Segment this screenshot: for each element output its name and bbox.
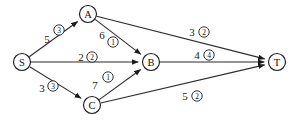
node-label-b: B [147, 57, 154, 68]
edge-s-a [29, 21, 77, 56]
edge-flow-label: 3 [57, 26, 61, 35]
edge-label-a-t: 32 [189, 26, 209, 38]
edge-flow-label: 1 [106, 73, 110, 82]
edge-capacity-label: 3 [39, 82, 45, 94]
node-label-s: S [19, 57, 25, 68]
edge-label-s-b: 22 [78, 51, 97, 63]
edge-flow-label: 1 [111, 38, 115, 47]
node-label-c: C [88, 100, 95, 111]
flow-network-diagram: SABCT 5322336132714452 [0, 0, 297, 122]
edge-capacity-label: 6 [99, 29, 105, 41]
edge-label-b-t: 44 [194, 49, 214, 61]
edge-flow-label: 2 [90, 53, 94, 62]
edge-label-s-a: 53 [44, 25, 64, 45]
edge-capacity-label: 4 [194, 49, 200, 61]
node-c[interactable]: C [84, 97, 101, 114]
node-s[interactable]: S [14, 54, 31, 71]
node-label-a: A [84, 9, 92, 20]
edge-label-c-b: 71 [92, 72, 113, 91]
edge-capacity-label: 3 [189, 26, 195, 38]
edge-label-c-t: 52 [182, 90, 202, 102]
edge-label-a-b: 61 [99, 29, 118, 47]
node-a[interactable]: A [80, 6, 97, 23]
edge-flow-label: 2 [202, 28, 206, 37]
edge-a-t [97, 16, 265, 59]
edge-flow-label: 4 [207, 51, 211, 60]
edge-capacity-label: 2 [78, 51, 84, 63]
node-t[interactable]: T [269, 54, 286, 71]
edge-capacity-label: 7 [92, 79, 98, 91]
edge-labels-layer: 5322336132714452 [39, 25, 214, 102]
edge-label-s-c: 33 [39, 81, 58, 94]
node-label-t: T [274, 57, 281, 68]
edge-capacity-label: 5 [44, 33, 50, 45]
edge-capacity-label: 5 [182, 90, 188, 102]
graph-canvas: SABCT 5322336132714452 [0, 0, 297, 122]
node-b[interactable]: B [143, 54, 160, 71]
nodes-layer: SABCT [14, 6, 286, 114]
edge-flow-label: 3 [51, 82, 55, 91]
edge-flow-label: 2 [195, 92, 199, 101]
